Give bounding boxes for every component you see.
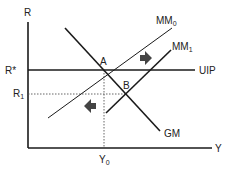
mm1-curve	[106, 50, 171, 113]
is-lm-diagram: R Y R* R1 Y0 UIP GM MM0 MM1 A B	[0, 0, 231, 174]
gm-label: GM	[164, 128, 180, 139]
mm0-label: MM0	[156, 15, 177, 27]
y-axis-label: R	[24, 7, 31, 18]
left-arrow-icon	[84, 99, 96, 113]
point-a-label: A	[100, 56, 107, 67]
point-b-label: B	[123, 80, 130, 91]
gm-curve	[65, 28, 160, 131]
x-axis-label: Y	[215, 143, 222, 154]
r1-label: R1	[13, 88, 24, 100]
r-star-label: R*	[5, 65, 16, 76]
mm1-label: MM1	[172, 41, 193, 53]
y0-label: Y0	[99, 154, 110, 166]
mm0-curve	[48, 28, 172, 118]
right-arrow-icon	[140, 51, 152, 65]
uip-label: UIP	[199, 65, 216, 76]
